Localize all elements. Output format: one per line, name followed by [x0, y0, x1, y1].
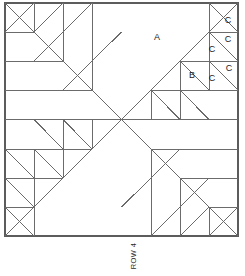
quadrant-top-left	[5, 3, 122, 90]
piece-label-a: A	[154, 32, 160, 42]
quadrant-bottom-right	[122, 149, 239, 236]
tl-c4-hyp	[63, 3, 92, 32]
bl-c2-hyp	[5, 178, 34, 207]
tr-c6-hyp	[180, 90, 209, 120]
piece-label-b: B	[189, 70, 195, 80]
br-c2-hyp	[180, 207, 209, 236]
piece-label-c4: C	[226, 63, 233, 73]
br-c6-hyp	[122, 178, 152, 207]
block-lines	[5, 3, 238, 236]
row-caption: ROW 4	[129, 243, 138, 270]
piece-label-c1: C	[225, 15, 232, 25]
bl-c6-hyp	[34, 120, 63, 150]
tl-c2-hyp	[34, 3, 63, 32]
br-c4-hyp	[151, 207, 180, 236]
quilt-block-drawing: A B C C C C C ROW 4	[0, 0, 245, 276]
piece-label-c3: C	[209, 44, 216, 54]
bl-c3-hyp	[34, 149, 63, 178]
bl-c5-hyp	[63, 120, 92, 150]
row-caption-group: ROW 4	[129, 243, 138, 270]
piece-label-c5: C	[209, 73, 216, 83]
tl-c6-hyp	[92, 32, 122, 61]
tr-c5-hyp	[151, 90, 180, 120]
bl-c4-hyp	[5, 149, 34, 178]
piece-label-c2: C	[225, 34, 232, 44]
quilt-block-figure: A B C C C C C ROW 4	[0, 0, 245, 276]
